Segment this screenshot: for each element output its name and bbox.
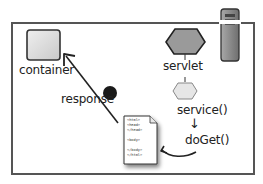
doc-line: <body>	[127, 138, 142, 143]
servlet-label: servlet	[163, 59, 203, 73]
doc-line: </html>	[127, 153, 142, 158]
response-label: response	[61, 92, 114, 106]
html-document-content: <html> <head> </head> <body> </body> </h…	[127, 118, 142, 158]
servlet-icon	[166, 29, 205, 82]
doget-method-label: doGet()	[185, 133, 229, 147]
service-method-label: service()	[177, 103, 228, 117]
down-arrow-icon: ↓	[189, 116, 200, 131]
container-label: container	[19, 63, 74, 77]
doget-arrow	[161, 146, 196, 156]
server-tower-icon	[221, 9, 239, 61]
doc-line: </head>	[127, 128, 142, 133]
container-icon	[27, 30, 60, 60]
thread-icon	[173, 83, 197, 99]
